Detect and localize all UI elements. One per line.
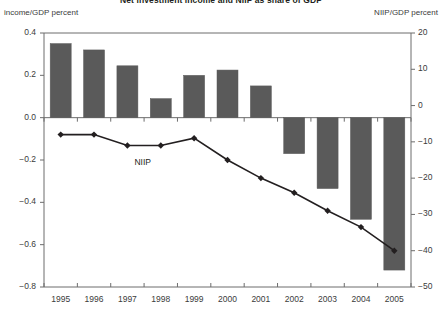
bar-1995 — [50, 44, 71, 118]
niip-marker-1998 — [158, 142, 164, 148]
right-axis-tick-label: −50 — [418, 281, 442, 291]
niip-line — [61, 135, 395, 251]
left-axis-tick-label: 0.4 — [0, 27, 36, 37]
left-axis-caption: income/GDP percent — [4, 8, 78, 17]
left-axis-tick-label: −0.8 — [0, 281, 36, 291]
left-axis-tick-label: −0.4 — [0, 196, 36, 206]
chart-figure: Net investment income and NIIP as share … — [0, 0, 442, 312]
niip-series-annotation: NIIP — [134, 157, 151, 167]
right-axis-tick-label: −10 — [418, 136, 442, 146]
niip-marker-2003 — [324, 208, 330, 214]
bar-2002 — [284, 118, 305, 154]
right-axis-tick-label: 10 — [418, 63, 442, 73]
bar-1998 — [150, 99, 171, 118]
right-axis-tick-label: −20 — [418, 172, 442, 182]
bar-1999 — [184, 75, 205, 117]
right-axis-caption: NIIP/GDP percent — [374, 8, 438, 17]
niip-marker-2002 — [291, 190, 297, 196]
bar-2005 — [384, 118, 405, 270]
bar-1997 — [117, 66, 138, 118]
bar-1996 — [84, 50, 105, 118]
niip-marker-1995 — [58, 131, 64, 137]
niip-marker-1997 — [124, 142, 130, 148]
bar-2001 — [250, 86, 271, 118]
bar-2000 — [217, 70, 238, 118]
right-axis-tick-label: 20 — [418, 27, 442, 37]
bar-2003 — [317, 118, 338, 189]
left-axis-tick-label: 0.2 — [0, 69, 36, 79]
niip-marker-1996 — [91, 131, 97, 137]
plot-area — [0, 0, 442, 312]
x-axis-tick-label-2005: 2005 — [374, 294, 414, 304]
niip-marker-2001 — [258, 175, 264, 181]
left-axis-tick-label: −0.2 — [0, 154, 36, 164]
bar-2004 — [350, 118, 371, 220]
right-axis-tick-label: −40 — [418, 245, 442, 255]
left-axis-tick-label: 0.0 — [0, 112, 36, 122]
right-axis-tick-label: 0 — [418, 100, 442, 110]
right-axis-tick-label: −30 — [418, 208, 442, 218]
left-axis-tick-label: −0.6 — [0, 239, 36, 249]
chart-title: Net investment income and NIIP as share … — [0, 0, 442, 5]
